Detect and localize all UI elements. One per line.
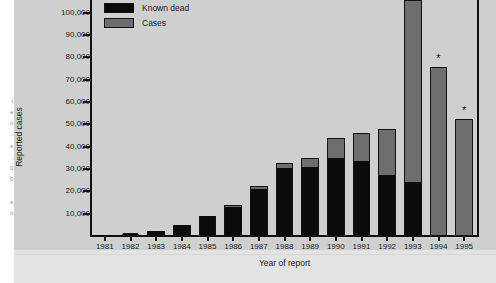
y-axis-title: Reported cases <box>14 90 24 184</box>
x-tick-mark <box>284 237 286 241</box>
legend-label-known_dead: Known dead <box>142 3 189 14</box>
x-tick-mark <box>412 237 414 241</box>
bar-1985 <box>199 216 217 236</box>
bar-segment-known-dead <box>251 189 267 235</box>
y-tick-row: 90,000 <box>34 31 90 39</box>
y-tick-label: 20,000 <box>44 187 90 195</box>
y-tick-row: 100,000 <box>34 9 90 17</box>
y-tick-label: 50,000 <box>44 120 90 128</box>
y-tick-label: 40,000 <box>44 143 90 151</box>
y-tick-row: 30,000 <box>34 165 90 173</box>
bar-segment-known-dead <box>174 225 190 235</box>
bar-segment-known-dead <box>200 216 216 235</box>
bar-1993 <box>404 0 422 236</box>
bar-1986 <box>224 205 242 236</box>
page-bleed-text: t e n - s , 0 0 s n <box>1 96 13 219</box>
x-tick-mark <box>232 237 234 241</box>
bar-1994 <box>430 67 448 236</box>
bar-segment-cases <box>302 159 318 167</box>
y-tick-row: 80,000 <box>34 53 90 61</box>
asterisk-1994: * <box>432 54 446 62</box>
y-tick-row: 40,000 <box>34 143 90 151</box>
panel-divider <box>14 254 496 255</box>
x-tick-mark <box>386 237 388 241</box>
bar-segment-cases <box>456 120 472 235</box>
bar-segment-cases <box>405 1 421 182</box>
y-tick-row: 60,000 <box>34 98 90 106</box>
bar-segment-known-dead <box>123 233 139 235</box>
y-tick-row: 10,000 <box>34 210 90 218</box>
x-tick-mark <box>155 237 157 241</box>
bar-segment-known-dead <box>225 207 241 235</box>
bar-segment-known-dead <box>277 168 293 235</box>
bar-segment-known-dead <box>379 175 395 235</box>
legend-swatch-known_dead <box>104 3 134 13</box>
x-axis-title: Year of report <box>90 258 479 268</box>
x-tick-mark <box>309 237 311 241</box>
legend-label-cases: Cases <box>142 18 166 29</box>
page-text-bleed: t e n - s , 0 0 s n <box>0 0 14 283</box>
bar-segment-cases <box>431 68 447 235</box>
x-tick-label-1995: 1995 <box>449 242 479 251</box>
bar-segment-known-dead <box>148 231 164 235</box>
bar-1984 <box>173 225 191 236</box>
x-tick-mark <box>438 237 440 241</box>
bar-segment-known-dead <box>405 182 421 235</box>
bar-1989 <box>301 158 319 236</box>
y-tick-row: 70,000 <box>34 76 90 84</box>
bar-1988 <box>276 163 294 236</box>
bar-segment-cases <box>277 164 293 168</box>
bar-segment-cases <box>328 139 344 158</box>
y-tick-row: 20,000 <box>34 187 90 195</box>
x-tick-mark <box>361 237 363 241</box>
bar-segment-cases <box>225 206 241 207</box>
x-tick-mark <box>258 237 260 241</box>
bar-segment-known-dead <box>328 158 344 235</box>
x-tick-mark <box>207 237 209 241</box>
bar-segment-known-dead <box>354 161 370 235</box>
y-tick-row: 50,000 <box>34 120 90 128</box>
bar-segment-cases <box>354 134 370 161</box>
y-tick-label: 100,000 <box>44 9 90 17</box>
y-tick-label: 10,000 <box>44 210 90 218</box>
bar-1990 <box>327 138 345 236</box>
y-tick-label: 30,000 <box>44 165 90 173</box>
bar-1995 <box>455 119 473 236</box>
bar-segment-cases <box>251 187 267 189</box>
x-tick-mark <box>130 237 132 241</box>
chart-figure: t e n - s , 0 0 s n 10,00020,00030,00040… <box>0 0 496 283</box>
x-tick-mark <box>104 237 106 241</box>
asterisk-1995: * <box>457 106 471 114</box>
x-tick-mark <box>335 237 337 241</box>
bar-1981 <box>96 235 114 237</box>
bar-1991 <box>353 133 371 236</box>
x-tick-mark <box>463 237 465 241</box>
y-tick-label: 70,000 <box>44 76 90 84</box>
y-tick-label: 80,000 <box>44 53 90 61</box>
bar-segment-known-dead <box>97 235 113 236</box>
y-tick-label: 60,000 <box>44 98 90 106</box>
plot-right-border <box>477 0 479 237</box>
x-tick-mark <box>181 237 183 241</box>
y-tick-label: 90,000 <box>44 31 90 39</box>
y-axis-line <box>90 0 92 237</box>
bar-segment-known-dead <box>302 167 318 235</box>
bar-segment-cases <box>379 130 395 175</box>
legend-swatch-cases <box>104 18 134 28</box>
bar-1983 <box>147 231 165 236</box>
bar-1987 <box>250 186 268 236</box>
bar-1982 <box>122 234 140 236</box>
bar-1992 <box>378 129 396 236</box>
